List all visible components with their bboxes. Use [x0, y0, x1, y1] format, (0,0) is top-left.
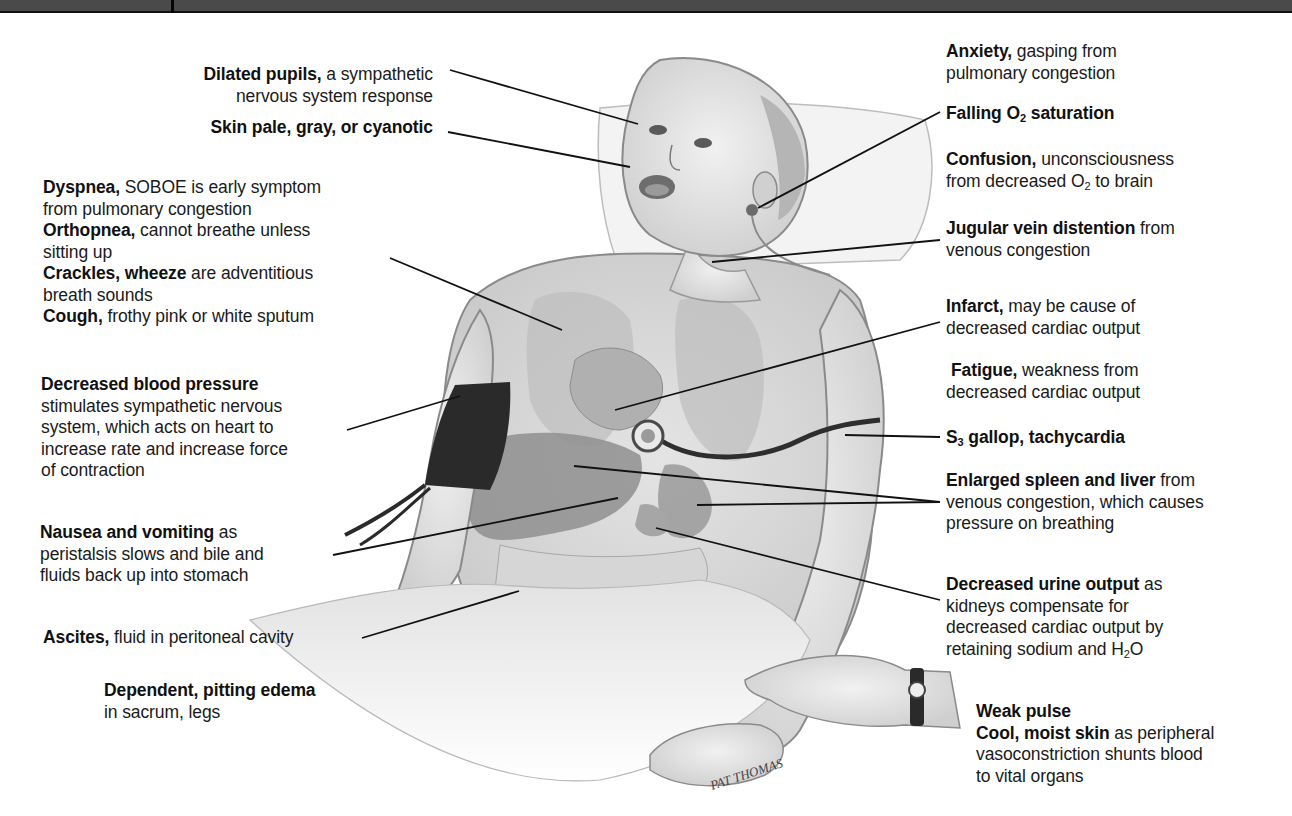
label-edema: Dependent, pitting edema in sacrum, legs — [104, 680, 316, 723]
label-term: Skin pale, gray, or cyanotic — [210, 117, 433, 137]
label-nausea: Nausea and vomiting as peristalsis slows… — [40, 522, 264, 587]
label-desc: vasoconstriction shunts blood — [976, 744, 1214, 766]
label-desc: decreased cardiac output — [946, 382, 1140, 404]
label-urine-output: Decreased urine output as kidneys compen… — [946, 574, 1163, 660]
label-blood-pressure: Decreased blood pressure stimulates symp… — [41, 374, 288, 482]
label-infarct: Infarct, may be cause of decreased cardi… — [946, 296, 1140, 339]
label-term: Dilated pupils, — [203, 64, 321, 84]
label-desc: cannot breathe unless — [135, 220, 310, 240]
label-desc: from — [1135, 218, 1174, 238]
label-desc: a sympathetic — [322, 64, 433, 84]
label-term: Dependent, pitting edema — [104, 680, 316, 700]
label-desc: as — [214, 522, 237, 542]
label-o2-saturation: Falling O2 saturation — [946, 103, 1114, 125]
label-desc: stimulates sympathetic nervous — [41, 396, 288, 418]
label-desc: as peripheral — [1110, 723, 1215, 743]
label-desc: kidneys compensate for — [946, 596, 1163, 618]
label-desc: decreased cardiac output — [946, 318, 1140, 340]
label-desc: SOBOE is early symptom — [120, 177, 321, 197]
label-desc: unconsciousness — [1036, 149, 1174, 169]
label-term: Cough, — [43, 306, 103, 326]
label-desc: venous congestion, which causes — [946, 492, 1204, 514]
label-desc: from decreased O — [946, 171, 1084, 191]
label-desc: venous congestion — [946, 240, 1175, 262]
label-term: Infarct, — [946, 296, 1004, 316]
label-term: gallop, tachycardia — [964, 427, 1125, 447]
label-term: Falling O — [946, 103, 1020, 123]
label-desc: from pulmonary congestion — [43, 199, 321, 221]
label-desc: pulmonary congestion — [946, 63, 1117, 85]
label-term: Nausea and vomiting — [40, 522, 214, 542]
label-confusion: Confusion, unconsciousness from decrease… — [946, 149, 1174, 192]
label-desc: gasping from — [1012, 41, 1117, 61]
label-desc: may be cause of — [1004, 296, 1136, 316]
label-term: Confusion, — [946, 149, 1036, 169]
leader-dilated-pupils — [450, 70, 638, 124]
label-term: Cool, moist skin — [976, 723, 1110, 743]
label-pulse-skin: Weak pulse Cool, moist skin as periphera… — [976, 701, 1214, 787]
label-desc: sitting up — [43, 242, 321, 264]
label-s3-gallop: S3 gallop, tachycardia — [946, 427, 1125, 449]
label-term: Weak pulse — [976, 701, 1071, 721]
label-dyspnea-group: Dyspnea, SOBOE is early symptom from pul… — [43, 177, 321, 328]
label-desc: from — [1156, 470, 1195, 490]
label-term: Decreased blood pressure — [41, 374, 258, 394]
label-term: Dyspnea, — [43, 177, 120, 197]
label-desc: increase rate and increase force — [41, 439, 288, 461]
label-jvd: Jugular vein distention from venous cong… — [946, 218, 1175, 261]
label-desc: peristalsis slows and bile and — [40, 544, 264, 566]
label-dilated-pupils: Dilated pupils, a sympathetic nervous sy… — [120, 64, 433, 107]
label-desc: weakness from — [1017, 360, 1138, 380]
label-desc: of contraction — [41, 460, 288, 482]
label-fatigue: Fatigue, weakness from decreased cardiac… — [951, 360, 1140, 403]
label-anxiety: Anxiety, gasping from pulmonary congesti… — [946, 41, 1117, 84]
label-term: Crackles, wheeze — [43, 263, 186, 283]
label-desc: retaining sodium and H — [946, 639, 1124, 659]
label-term: Anxiety, — [946, 41, 1012, 61]
label-desc: system, which acts on heart to — [41, 417, 288, 439]
label-desc: pressure on breathing — [946, 513, 1204, 535]
label-term: Ascites, — [43, 627, 109, 647]
label-desc: are adventitious — [186, 263, 313, 283]
label-desc: breath sounds — [43, 285, 321, 307]
label-term: Orthopnea, — [43, 220, 135, 240]
label-desc: fluids back up into stomach — [40, 565, 264, 587]
label-desc: nervous system response — [120, 86, 433, 108]
label-desc: frothy pink or white sputum — [103, 306, 314, 326]
label-desc: as — [1139, 574, 1162, 594]
label-desc: O — [1130, 639, 1144, 659]
label-term: Jugular vein distention — [946, 218, 1135, 238]
label-term: S — [946, 427, 958, 447]
label-desc: fluid in peritoneal cavity — [109, 627, 293, 647]
watch-icon — [909, 682, 925, 698]
label-ascites: Ascites, fluid in peritoneal cavity — [43, 627, 293, 649]
label-term: Decreased urine output — [946, 574, 1139, 594]
label-desc: in sacrum, legs — [104, 702, 316, 724]
label-desc: to vital organs — [976, 766, 1214, 788]
label-term: Enlarged spleen and liver — [946, 470, 1156, 490]
label-term: saturation — [1026, 103, 1114, 123]
label-spleen-liver: Enlarged spleen and liver from venous co… — [946, 470, 1204, 535]
label-desc: decreased cardiac output by — [946, 617, 1163, 639]
label-term: Fatigue, — [951, 360, 1017, 380]
label-skin: Skin pale, gray, or cyanotic — [120, 117, 433, 139]
label-desc: to brain — [1091, 171, 1153, 191]
